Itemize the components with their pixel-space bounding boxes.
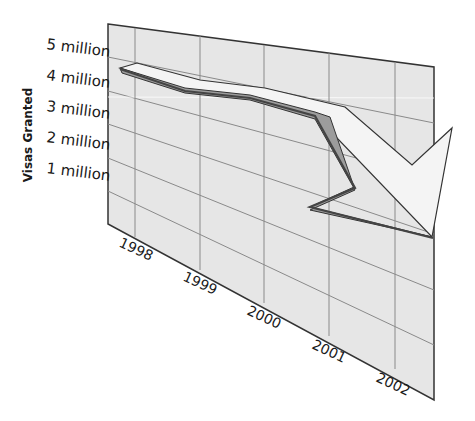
y-tick-1m: 1 million bbox=[46, 159, 112, 185]
y-tick-3m: 3 million bbox=[46, 97, 112, 123]
y-tick-labels: 5 million 4 million 3 million 2 million … bbox=[46, 35, 112, 185]
y-tick-2m: 2 million bbox=[46, 128, 112, 154]
chart-canvas: Visas Granted 5 million 4 million 3 mill… bbox=[0, 0, 475, 421]
y-axis-title: Visas Granted bbox=[21, 88, 35, 183]
y-tick-5m: 5 million bbox=[46, 35, 112, 61]
y-tick-4m: 4 million bbox=[46, 66, 112, 92]
